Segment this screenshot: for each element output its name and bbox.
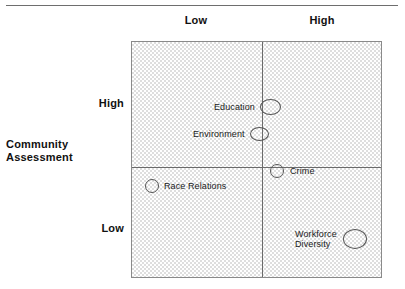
bubble-item-race-relations[interactable]: Race Relations xyxy=(145,179,226,193)
column-header-low: Low xyxy=(156,14,236,26)
top-divider-rule xyxy=(6,5,398,6)
bubble-label-environment: Environment xyxy=(193,129,245,139)
y-axis-title-line1: Community xyxy=(6,138,68,150)
bubble-label-workforce-diversity-line2: Diversity xyxy=(295,239,337,249)
y-axis-title: Community Assessment xyxy=(6,138,116,164)
bubble-label-workforce-diversity-line1: Workforce xyxy=(295,229,337,239)
bubble-marker-race-relations xyxy=(145,179,159,193)
bubble-label-education: Education xyxy=(214,102,255,112)
bubble-label-race-relations: Race Relations xyxy=(164,181,226,191)
vertical-quadrant-divider xyxy=(262,42,263,277)
row-header-high: High xyxy=(99,97,124,109)
bubble-marker-workforce-diversity xyxy=(343,229,367,249)
bubble-item-workforce-diversity[interactable]: Workforce Diversity xyxy=(290,229,367,249)
horizontal-quadrant-divider xyxy=(132,167,381,168)
bubble-marker-education xyxy=(260,99,281,115)
row-header-low: Low xyxy=(101,222,124,234)
bubble-marker-crime xyxy=(270,164,284,178)
y-axis-title-line2: Assessment xyxy=(6,151,116,164)
matrix-plot-area: Education Environment Crime Race Relatio… xyxy=(131,41,382,278)
bubble-label-crime: Crime xyxy=(290,166,315,176)
bubble-label-workforce-diversity: Workforce Diversity xyxy=(295,229,337,249)
bubble-marker-environment xyxy=(250,127,269,141)
bubble-item-crime[interactable]: Crime xyxy=(270,164,315,178)
community-assessment-matrix-figure: Low High High Low Community Assessment E… xyxy=(0,0,405,289)
bubble-item-environment[interactable]: Environment xyxy=(188,127,269,141)
column-header-high: High xyxy=(282,14,362,26)
bubble-item-education[interactable]: Education xyxy=(209,99,281,115)
